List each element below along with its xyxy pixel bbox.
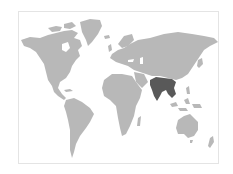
new-zealand <box>208 136 214 148</box>
greenland <box>80 19 102 46</box>
indonesia <box>170 86 202 111</box>
uk <box>108 44 112 52</box>
tasmania <box>190 140 193 143</box>
north-america <box>21 30 82 100</box>
south-america <box>64 98 94 158</box>
japan <box>197 58 203 68</box>
highlighted-region-south-southeast-asia <box>150 77 176 101</box>
madagascar <box>137 116 141 126</box>
world-map <box>0 0 233 174</box>
caribbean <box>64 89 73 92</box>
caspian-sea <box>140 57 143 64</box>
iceland <box>104 35 110 39</box>
australia <box>176 114 198 138</box>
africa <box>102 74 142 136</box>
